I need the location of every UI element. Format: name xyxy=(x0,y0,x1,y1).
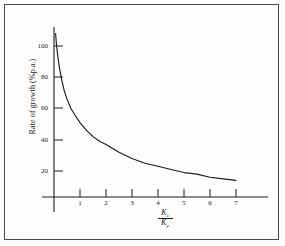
chart-canvas xyxy=(0,0,285,246)
growth-rate-curve xyxy=(56,34,236,181)
y-axis-title: Rate of growth (%p.a.) xyxy=(28,17,37,177)
x-axis-title-numerator: Kc xyxy=(149,209,181,217)
x-tick-label-4: 4 xyxy=(152,199,164,207)
y-tick-label-80: 80 xyxy=(30,73,48,81)
y-tick-label-40: 40 xyxy=(30,136,48,144)
x-tick-label-2: 2 xyxy=(100,199,112,207)
y-tick-label-100: 100 xyxy=(30,42,48,50)
figure-page: Rate of growth (%p.a.) 100 80 60 40 20 1… xyxy=(0,0,285,246)
x-axis-title: Kc Kp xyxy=(149,209,181,228)
axes-group xyxy=(42,27,268,212)
x-tick-label-7: 7 xyxy=(230,199,242,207)
y-tick-label-60: 60 xyxy=(30,104,48,112)
x-tick-label-6: 6 xyxy=(204,199,216,207)
y-tick-label-20: 20 xyxy=(30,167,48,175)
x-tick-label-1: 1 xyxy=(74,199,86,207)
x-tick-marks xyxy=(80,189,236,197)
x-axis-title-denominator: Kp xyxy=(149,219,181,227)
x-tick-label-5: 5 xyxy=(178,199,190,207)
x-tick-label-3: 3 xyxy=(126,199,138,207)
